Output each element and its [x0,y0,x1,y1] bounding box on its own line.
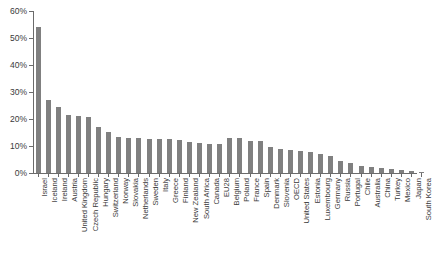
x-axis-tick [336,173,346,177]
x-axis-tick-mark [381,173,382,177]
x-axis-label-slot: Canada [205,178,215,253]
x-axis-tick [134,173,144,177]
x-axis-tick [225,173,235,177]
bar-slot [33,11,43,173]
bar [207,144,212,173]
x-axis-label-slot: New Zealand [184,178,194,253]
x-axis-label-slot: Denmark [265,178,275,253]
bar [106,132,111,173]
x-axis-label-slot: Slovakia [124,178,134,253]
x-axis-tick-mark [159,173,160,177]
x-axis-label-slot: Austria [63,178,73,253]
x-axis-label-slot: Netherlands [134,178,144,253]
x-axis-tick [154,173,164,177]
bar [359,166,364,173]
bar-slot [356,11,366,173]
x-axis-tick [306,173,316,177]
bar-slot [366,11,376,173]
x-axis-tick [215,173,225,177]
x-axis-tick [164,173,174,177]
bar-slot [417,11,427,173]
x-axis-tick-mark [38,173,39,177]
bar [328,156,333,173]
bar-slot [265,11,275,173]
x-axis-tick-mark [371,173,372,177]
bar-slot [73,11,83,173]
x-axis-labels: IsraelIcelandIrelandAustriaUnited Kingdo… [33,178,417,253]
x-axis-label-slot: Turkey [386,178,396,253]
x-axis-tick-mark [290,173,291,177]
bar [157,139,162,173]
bar-slot [205,11,215,173]
x-axis-label-slot: Estonia [306,178,316,253]
bar [96,127,101,173]
x-axis-tick-mark [310,173,311,177]
x-axis-tick-mark [391,173,392,177]
bar [116,137,121,173]
x-axis-tick [285,173,295,177]
x-axis-tick [124,173,134,177]
x-axis-tick [366,173,376,177]
y-axis-tick-label: 50% [0,34,27,43]
bar [268,147,273,173]
bar [248,141,253,173]
bar [177,140,182,173]
x-axis-tick [184,173,194,177]
x-axis-tick-mark [199,173,200,177]
x-axis-tick [275,173,285,177]
x-axis-label-slot: Luxembourg [316,178,326,253]
x-axis-tick [63,173,73,177]
bar [126,138,131,173]
bar-slot [235,11,245,173]
bar-slot [406,11,416,173]
x-axis-tick [43,173,53,177]
x-axis-label-slot: Switzerland [104,178,114,253]
x-axis-label-slot: United States [295,178,305,253]
bar [308,152,313,173]
x-axis-tick-mark [209,173,210,177]
x-axis-tick-mark [118,173,119,177]
x-axis-tick-mark [239,173,240,177]
x-axis-label-slot: Norway [114,178,124,253]
bar-series [33,11,417,173]
x-axis-tick [33,173,43,177]
x-axis-tick-mark [411,173,412,177]
x-axis-label-slot: OECD [285,178,295,253]
x-axis-tick-mark [149,173,150,177]
x-axis-tick-mark [138,173,139,177]
bar [278,149,283,173]
x-axis-tick-mark [250,173,251,177]
bar-slot [164,11,174,173]
bar-slot [124,11,134,173]
x-axis-ticks [33,173,417,177]
x-axis-tick [346,173,356,177]
bar-slot [245,11,255,173]
y-axis-tick-label: 20% [0,115,27,124]
x-axis-tick-mark [58,173,59,177]
x-axis-label-slot: Finland [174,178,184,253]
bar [318,154,323,173]
x-axis-label-slot: Sweden [144,178,154,253]
x-axis-label-slot: United Kingdom [73,178,83,253]
x-axis-label-slot: Italy [154,178,164,253]
bar-slot [184,11,194,173]
x-axis-tick-mark [189,173,190,177]
y-axis-tick-label: 60% [0,7,27,16]
x-axis-tick [73,173,83,177]
bar [66,115,71,173]
bar [167,139,172,173]
x-axis-label-slot: Greece [164,178,174,253]
x-axis-label-slot: South Korea [417,178,427,253]
bar [338,161,343,173]
x-axis-label-slot: Japan [406,178,416,253]
y-axis-tick-label: 10% [0,142,27,151]
bar [258,141,263,173]
x-axis-label-slot: Poland [235,178,245,253]
bar-slot [174,11,184,173]
x-axis-tick-mark [88,173,89,177]
x-axis-tick-mark [128,173,129,177]
x-axis-tick-mark [108,173,109,177]
x-axis-tick [235,173,245,177]
bar-slot [275,11,285,173]
x-axis-tick-mark [260,173,261,177]
